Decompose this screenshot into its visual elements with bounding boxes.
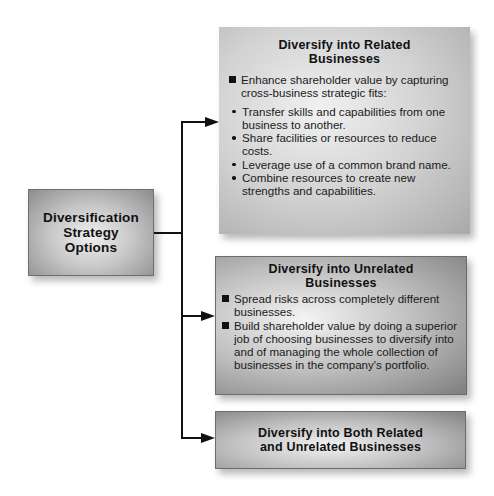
option-related-body: Enhance shareholder value by capturing c… xyxy=(227,73,460,198)
option-both-related-and-unrelated: Diversify into Both Related and Unrelate… xyxy=(215,411,466,469)
point-text: Build shareholder value by doing a super… xyxy=(234,319,457,372)
arrow-related-icon xyxy=(205,117,219,127)
option-related-businesses: Diversify into Related Businesses Enhanc… xyxy=(219,27,470,234)
arrow-unrelated-icon xyxy=(201,311,215,321)
connector-branch-unrelated xyxy=(181,315,203,317)
root-node-title: Diversification Strategy Options xyxy=(43,210,139,255)
subpoint-item: Combine resources to create new strength… xyxy=(228,171,460,198)
square-bullet-point: Spread risks across completely different… xyxy=(220,292,458,319)
option-unrelated-title: Diversify into Unrelated Businesses xyxy=(216,262,466,290)
arrow-both-icon xyxy=(201,433,215,443)
option-unrelated-body: Spread risks across completely different… xyxy=(220,292,458,372)
square-bullet-point: Build shareholder value by doing a super… xyxy=(220,319,458,372)
option-related-title: Diversify into Related Businesses xyxy=(219,38,470,66)
option-unrelated-businesses: Diversify into Unrelated Businesses Spre… xyxy=(215,256,467,395)
subpoint-list: Transfer skills and capabilities from on… xyxy=(228,105,460,198)
point-text: Enhance shareholder value by capturing c… xyxy=(241,73,449,99)
subpoint-item: Share facilities or resources to reduce … xyxy=(228,131,460,158)
point-text: Spread risks across completely different… xyxy=(234,292,439,318)
root-node-diversification-strategy-options: Diversification Strategy Options xyxy=(28,189,154,276)
subpoint-item: Transfer skills and capabilities from on… xyxy=(228,105,460,132)
connector-trunk-vertical xyxy=(181,121,183,439)
square-bullet-point: Enhance shareholder value by capturing c… xyxy=(227,73,460,100)
subpoint-item: Leverage use of a common brand name. xyxy=(228,158,460,171)
option-both-title: Diversify into Both Related and Unrelate… xyxy=(258,426,423,454)
connector-branch-related xyxy=(181,121,207,123)
connector-branch-both xyxy=(181,437,203,439)
connector-root-horizontal xyxy=(154,232,183,234)
